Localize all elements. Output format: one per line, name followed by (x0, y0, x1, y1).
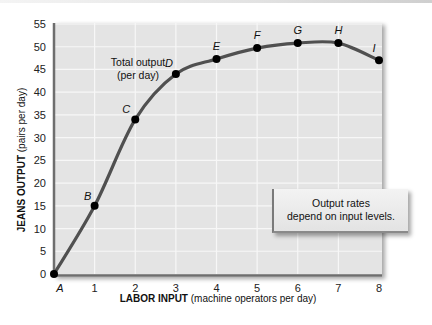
point-label: B (84, 190, 91, 202)
curve-label-line2: (per day) (117, 69, 159, 81)
data-point-g (294, 39, 302, 47)
y-tick-label: 5 (40, 245, 46, 257)
point-label: H (334, 24, 342, 36)
y-tick-label: 30 (34, 132, 46, 144)
data-point-i (375, 56, 383, 64)
data-point-b (91, 202, 99, 210)
y-tick-label: 45 (34, 63, 46, 75)
x-tick-label: 1 (92, 282, 98, 294)
x-axis-label-rest: (machine operators per day) (188, 293, 316, 304)
y-axis-ticks: 0510152025303540455055 (34, 18, 46, 280)
point-label: G (293, 24, 302, 36)
total-output-chart: 0510152025303540455055 A12345678 BCDEFGH… (0, 0, 432, 325)
data-point-e (213, 55, 221, 63)
x-tick-label: 7 (335, 282, 341, 294)
y-tick-label: 50 (34, 41, 46, 53)
data-point-h (334, 39, 342, 47)
y-tick-label: 15 (34, 200, 46, 212)
data-point-c (131, 115, 139, 123)
y-tick-label: 20 (34, 177, 46, 189)
data-point-f (253, 44, 261, 52)
y-tick-label: 25 (34, 154, 46, 166)
point-label: E (213, 40, 221, 52)
y-tick-label: 10 (34, 223, 46, 235)
point-label: I (372, 42, 375, 54)
point-label: D (165, 57, 173, 69)
x-axis-label: LABOR INPUT (machine operators per day) (120, 293, 317, 304)
y-tick-label: 35 (34, 109, 46, 121)
x-axis-label-bold: LABOR INPUT (120, 293, 188, 304)
y-axis-label: JEANS OUTPUT (pairs per day) (16, 88, 27, 232)
y-tick-label: 0 (40, 268, 46, 280)
y-tick-label: 40 (34, 86, 46, 98)
y-axis-label-rest: (pairs per day) (16, 88, 27, 155)
curve-label-line1: Total output (111, 56, 165, 68)
y-tick-label: 55 (34, 18, 46, 30)
data-point-a (50, 270, 58, 278)
callout-line2: depend on input levels. (287, 210, 395, 223)
y-axis-label-bold: JEANS OUTPUT (16, 155, 27, 232)
point-label: C (122, 103, 130, 115)
callout-line1: Output rates (312, 197, 370, 210)
x-tick-label: A (55, 282, 63, 294)
x-tick-label: 8 (376, 282, 382, 294)
callout-box: Output rates depend on input levels. (272, 189, 408, 233)
data-point-d (172, 70, 180, 78)
